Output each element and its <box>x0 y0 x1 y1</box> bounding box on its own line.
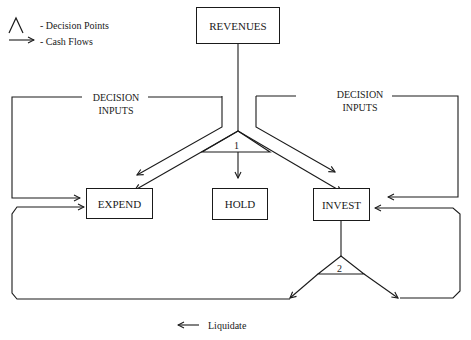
expend-label: EXPEND <box>98 198 141 210</box>
invest-label: INVEST <box>322 199 361 211</box>
liquidate-label: Liquidate <box>208 319 246 332</box>
legend-decision-points-label: - Decision Points <box>40 19 109 32</box>
decision-inputs-right-line1: DECISION <box>330 88 390 101</box>
invest-node: INVEST <box>313 188 370 221</box>
decision-point-1-label: 1 <box>234 139 239 152</box>
revenues-node: REVENUES <box>196 7 280 44</box>
hold-node: HOLD <box>212 188 268 220</box>
decision-inputs-right-line2: INPUTS <box>330 101 390 114</box>
decision-inputs-left: DECISION INPUTS <box>86 91 146 117</box>
expend-node: EXPEND <box>86 188 153 219</box>
decision-inputs-right: DECISION INPUTS <box>330 88 390 114</box>
revenues-label: REVENUES <box>209 20 266 32</box>
decision-point-2-label: 2 <box>337 262 342 275</box>
decision-inputs-left-line2: INPUTS <box>86 104 146 117</box>
legend-cash-flows-label: - Cash Flows <box>40 35 93 48</box>
decision-inputs-left-line1: DECISION <box>86 91 146 104</box>
flow-diagram-lines <box>0 0 471 340</box>
hold-label: HOLD <box>225 198 256 210</box>
